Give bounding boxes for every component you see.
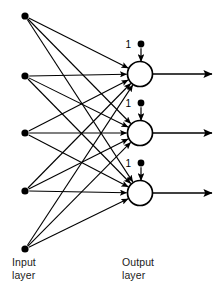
bias-3-label: 1 <box>125 158 131 169</box>
connection-arrow-2-2 <box>29 78 128 127</box>
connection-arrow-4-2 <box>29 139 128 189</box>
bias-1-dot <box>138 41 145 48</box>
connection-arrow-5-2 <box>28 142 131 246</box>
bias-3-dot <box>138 160 145 167</box>
neural-network-diagram: 111 Input layer Output layer <box>0 0 220 301</box>
input-node-3 <box>21 129 28 136</box>
input-node-1 <box>21 12 28 19</box>
connection-arrow-2-1 <box>29 74 127 76</box>
input-node-4 <box>21 187 28 194</box>
input-layer-label: Input layer <box>12 256 36 281</box>
connection-arrow-1-1 <box>29 18 128 68</box>
input-node-group <box>21 12 28 252</box>
connection-arrow-group <box>27 18 132 247</box>
output-arrow-group <box>153 74 213 193</box>
connection-arrow-1-2 <box>28 19 131 124</box>
output-layer-label-line1: Output <box>122 256 154 268</box>
output-neuron-group <box>128 62 153 206</box>
output-layer-label: Output layer <box>122 256 154 281</box>
bias-2-dot <box>138 100 145 107</box>
output-neuron-1 <box>128 62 153 87</box>
bias-2-label: 1 <box>125 98 131 109</box>
output-layer-label-line2: layer <box>122 269 154 282</box>
connection-arrow-5-1 <box>27 85 132 245</box>
connection-arrow-3-3 <box>29 135 128 187</box>
input-layer-label-line1: Input <box>12 256 36 268</box>
bias-input-group: 111 <box>125 39 144 181</box>
output-neuron-2 <box>128 121 153 146</box>
input-layer-label-line2: layer <box>12 269 36 282</box>
connection-arrow-2-3 <box>28 79 131 184</box>
output-neuron-3 <box>128 181 153 206</box>
input-node-2 <box>21 72 28 79</box>
bias-1-label: 1 <box>125 39 131 50</box>
input-node-5 <box>21 245 28 252</box>
connection-arrow-5-3 <box>29 199 128 247</box>
connection-arrow-4-3 <box>29 191 127 193</box>
